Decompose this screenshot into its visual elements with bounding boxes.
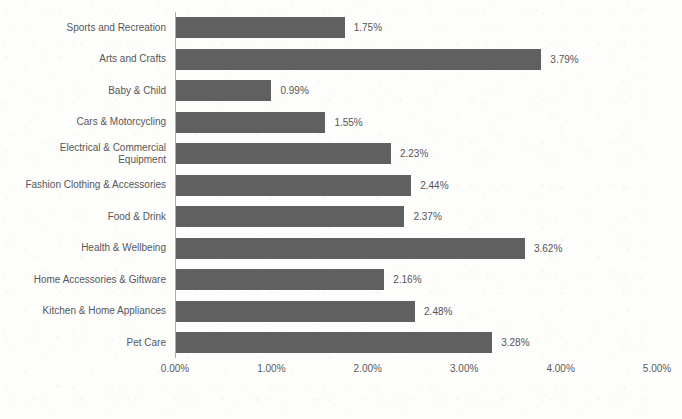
bar[interactable] — [176, 175, 411, 196]
category-label: Electrical & Commercial Equipment — [0, 142, 166, 165]
x-axis: 0.00%1.00%2.00%3.00%4.00%5.00% — [175, 362, 657, 382]
bar-value-label: 2.23% — [400, 145, 428, 162]
category-label: Kitchen & Home Appliances — [0, 305, 166, 317]
bar-chart: 1.75%3.79%0.99%1.55%2.23%2.44%2.37%3.62%… — [0, 0, 682, 419]
bar-value-label: 2.48% — [424, 303, 452, 320]
bar[interactable] — [176, 332, 492, 353]
bar-row: 2.44% — [175, 170, 657, 202]
bar-row: 1.75% — [175, 12, 657, 44]
bar-row: 2.23% — [175, 138, 657, 170]
bar[interactable] — [176, 301, 415, 322]
bar-row: 3.28% — [175, 327, 657, 359]
bar[interactable] — [176, 80, 271, 101]
bar-row: 0.99% — [175, 75, 657, 107]
x-tick-label: 3.00% — [450, 362, 478, 376]
bar-row: 1.55% — [175, 107, 657, 139]
bar-row: 3.62% — [175, 233, 657, 265]
category-label: Food & Drink — [0, 211, 166, 223]
category-label: Home Accessories & Giftware — [0, 274, 166, 286]
bar-row: 2.48% — [175, 296, 657, 328]
bar-value-label: 2.44% — [420, 177, 448, 194]
bar[interactable] — [176, 269, 384, 290]
bar-value-label: 3.79% — [550, 51, 578, 68]
category-label: Sports and Recreation — [0, 22, 166, 34]
bar[interactable] — [176, 143, 391, 164]
category-label: Fashion Clothing & Accessories — [0, 179, 166, 191]
bar-value-label: 0.99% — [280, 82, 308, 99]
x-tick-label: 4.00% — [546, 362, 574, 376]
category-label: Health & Wellbeing — [0, 242, 166, 254]
bar-value-label: 1.55% — [334, 114, 362, 131]
bar[interactable] — [176, 206, 404, 227]
bar-value-label: 2.16% — [393, 271, 421, 288]
bar[interactable] — [176, 17, 345, 38]
bar-value-label: 3.62% — [534, 240, 562, 257]
bar-value-label: 3.28% — [501, 334, 529, 351]
category-label: Pet Care — [0, 337, 166, 349]
bar[interactable] — [176, 49, 541, 70]
bar-row: 3.79% — [175, 44, 657, 76]
x-tick-label: 5.00% — [643, 362, 671, 376]
category-label: Cars & Motorcycling — [0, 116, 166, 128]
bar-value-label: 2.37% — [413, 208, 441, 225]
plot-area: 1.75%3.79%0.99%1.55%2.23%2.44%2.37%3.62%… — [175, 12, 657, 358]
category-label: Arts and Crafts — [0, 53, 166, 65]
bar[interactable] — [176, 238, 525, 259]
bar-value-label: 1.75% — [354, 19, 382, 36]
bar-row: 2.37% — [175, 201, 657, 233]
bar[interactable] — [176, 112, 325, 133]
x-tick-label: 1.00% — [257, 362, 285, 376]
category-label: Baby & Child — [0, 85, 166, 97]
x-tick-label: 0.00% — [161, 362, 189, 376]
x-tick-label: 2.00% — [354, 362, 382, 376]
bar-row: 2.16% — [175, 264, 657, 296]
